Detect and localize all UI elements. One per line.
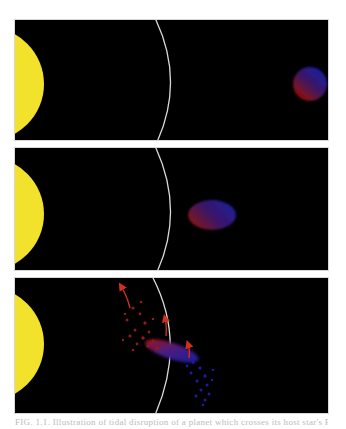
star-icon	[15, 280, 63, 408]
figure-panel-2	[15, 148, 328, 270]
figure-panel-1	[15, 20, 328, 140]
planet-sphere-icon	[293, 67, 327, 101]
roche-limit-arc	[155, 148, 171, 270]
blue-debris-particles	[186, 360, 215, 406]
figure-panel-3	[15, 278, 328, 413]
figure-caption: FIG. 1.1. Illustration of tidal disrupti…	[15, 415, 328, 429]
roche-limit-arc	[155, 20, 171, 140]
arrow-icon	[165, 318, 166, 336]
arrow-icon	[121, 286, 130, 308]
panel-2-illustration	[15, 148, 328, 270]
debris-stream	[122, 301, 215, 407]
star-icon	[15, 150, 63, 270]
star-icon	[15, 20, 63, 140]
panel-1-illustration	[15, 20, 328, 140]
panel-3-illustration	[15, 278, 328, 413]
planet-ellipsoid-icon	[188, 200, 236, 230]
